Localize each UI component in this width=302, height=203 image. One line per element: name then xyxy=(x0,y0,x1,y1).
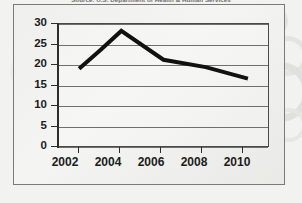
scanned-page-background: Source: U.S. Department of Health & Huma… xyxy=(0,0,302,203)
data-series-line xyxy=(79,31,248,79)
data-line-layer xyxy=(13,4,285,185)
line-chart: 30 25 20 15 10 5 0 2002 2004 2006 2008 2… xyxy=(13,4,285,185)
